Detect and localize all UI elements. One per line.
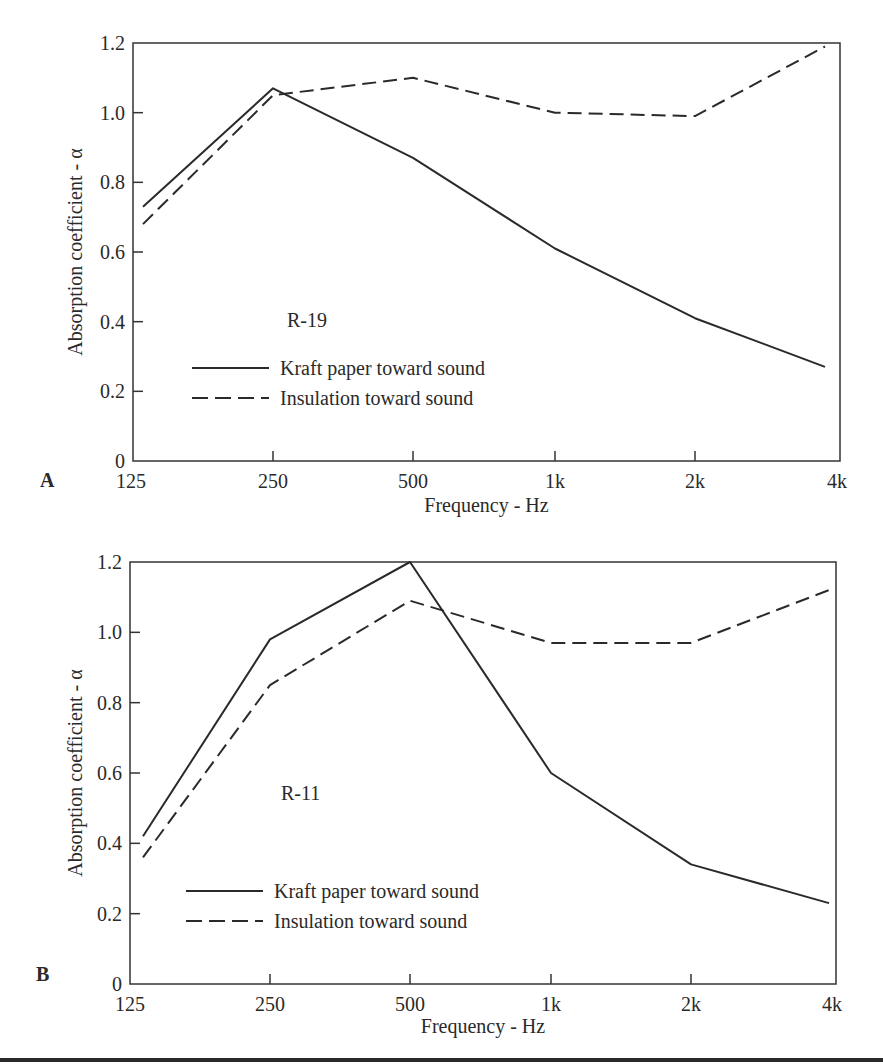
insulation-line [143, 47, 825, 225]
figure: 00.20.40.60.81.01.21252505001k2k4kFreque… [0, 0, 883, 1064]
legend-label: Insulation toward sound [280, 387, 473, 409]
r-value-annotation: R-11 [281, 782, 320, 804]
panel-label: A [40, 469, 55, 491]
panel-label: B [36, 963, 49, 985]
x-tick-label: 500 [398, 470, 428, 492]
x-tick-label: 1k [541, 993, 561, 1015]
legend-label: Insulation toward sound [274, 910, 467, 932]
x-tick-label: 125 [115, 993, 145, 1015]
y-tick-label: 0.8 [100, 171, 125, 193]
y-axis-label: Absorption coefficient - α [64, 669, 87, 877]
x-tick-label: 250 [255, 993, 285, 1015]
r-value-annotation: R-19 [287, 309, 327, 331]
y-tick-label: 0.4 [97, 832, 122, 854]
y-tick-label: 0.2 [100, 380, 125, 402]
insulation-line [143, 590, 829, 857]
bottom-rule [0, 1058, 883, 1062]
legend-label: Kraft paper toward sound [280, 357, 485, 380]
y-tick-label: 1.2 [100, 32, 125, 54]
x-axis-label: Frequency - Hz [424, 494, 549, 517]
x-axis-label: Frequency - Hz [421, 1015, 546, 1038]
x-tick-label: 1k [545, 470, 565, 492]
y-tick-label: 1.0 [97, 621, 122, 643]
y-tick-label: 0.8 [97, 692, 122, 714]
legend-label: Kraft paper toward sound [274, 880, 479, 903]
y-tick-label: 1.2 [97, 551, 122, 573]
y-tick-label: 0 [112, 973, 122, 995]
chart-a: 00.20.40.60.81.01.21252505001k2k4kFreque… [40, 32, 847, 517]
x-tick-label: 2k [685, 470, 705, 492]
y-tick-label: 0 [115, 450, 125, 472]
y-tick-label: 0.6 [100, 241, 125, 263]
kraft-paper-line [143, 88, 825, 367]
y-axis-label: Absorption coefficient - α [64, 148, 87, 356]
x-tick-label: 4k [822, 993, 842, 1015]
y-tick-label: 1.0 [100, 102, 125, 124]
y-tick-label: 0.6 [97, 762, 122, 784]
kraft-paper-line [143, 562, 829, 903]
x-tick-label: 250 [258, 470, 288, 492]
x-tick-label: 4k [827, 470, 847, 492]
x-tick-label: 500 [395, 993, 425, 1015]
chart-b: 00.20.40.60.81.01.21252505001k2k4kFreque… [36, 551, 842, 1038]
y-tick-label: 0.4 [100, 311, 125, 333]
x-tick-label: 125 [116, 470, 146, 492]
y-tick-label: 0.2 [97, 903, 122, 925]
x-tick-label: 2k [681, 993, 701, 1015]
